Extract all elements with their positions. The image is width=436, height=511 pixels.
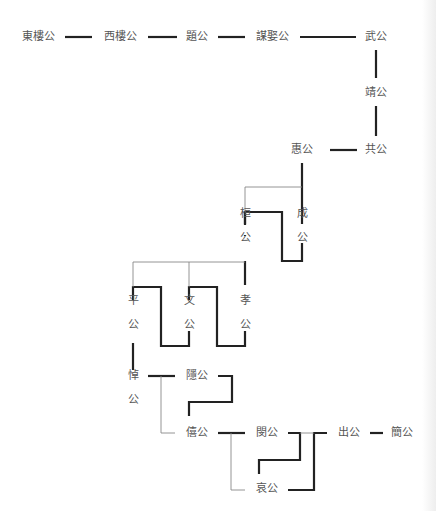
- node-jingg: 靖公: [365, 87, 387, 99]
- node-chu: 出公: [338, 427, 360, 439]
- node-xi: 僖公: [186, 427, 208, 439]
- node-xiloug: 西樓公: [104, 31, 137, 43]
- node-moujug: 謀娶公: [256, 31, 289, 43]
- line-ping-wen: [133, 287, 189, 346]
- node-huan-char2: 公: [238, 226, 252, 250]
- node-ping-char2: 公: [126, 313, 140, 337]
- kin-huig-children: [245, 187, 302, 212]
- node-wen-char1: 文: [182, 289, 196, 313]
- line-yin-xi: [189, 376, 232, 416]
- node-dongloug: 東樓公: [22, 31, 55, 43]
- node-ai: 哀公: [256, 483, 278, 495]
- kin-xi-ai: [231, 433, 245, 490]
- node-wug: 武公: [365, 31, 387, 43]
- node-huan-char1: 桓: [238, 202, 252, 226]
- kin-dao-xi: [161, 376, 175, 433]
- node-tig: 題公: [186, 31, 208, 43]
- node-min: 閔公: [256, 427, 278, 439]
- node-dao-char1: 悼: [126, 364, 140, 388]
- node-jian: 簡公: [391, 427, 413, 439]
- line-huan-cheng: [245, 212, 302, 261]
- node-gongg: 共公: [365, 144, 387, 156]
- node-ping: 平 公: [126, 289, 140, 337]
- line-min-ai: [259, 433, 300, 474]
- node-wen: 文 公: [182, 289, 196, 337]
- node-wen-char2: 公: [182, 313, 196, 337]
- node-xiao: 孝 公: [238, 289, 252, 337]
- node-xiao-char1: 孝: [238, 289, 252, 313]
- node-cheng: 成 公: [295, 202, 309, 250]
- node-dao-char2: 公: [126, 388, 140, 412]
- node-huan: 桓 公: [238, 202, 252, 250]
- line-ai-chu: [288, 433, 327, 490]
- node-yin: 隱公: [186, 370, 208, 382]
- node-xiao-char2: 公: [238, 313, 252, 337]
- page-edge-shadow: [422, 0, 436, 511]
- node-ping-char1: 平: [126, 289, 140, 313]
- line-wen-xiao: [189, 287, 245, 346]
- node-huig: 惠公: [291, 144, 313, 156]
- node-cheng-char2: 公: [295, 226, 309, 250]
- genealogy-diagram: [0, 0, 436, 511]
- node-cheng-char1: 成: [295, 202, 309, 226]
- node-dao: 悼 公: [126, 364, 140, 412]
